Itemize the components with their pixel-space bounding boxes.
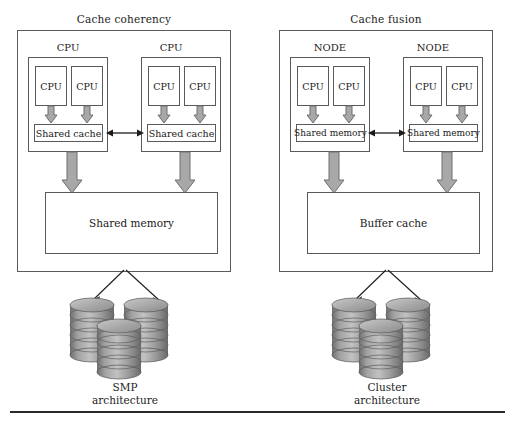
cpu-box-left-1a: CPU	[35, 66, 67, 106]
arrow-big-down-left-1	[61, 152, 83, 194]
arrow-big-down-right-1	[323, 152, 345, 194]
shared-memory-right-1: Shared memory	[296, 124, 365, 142]
disk-stack-smp	[68, 296, 180, 382]
panel-title-cache-fusion: Cache fusion	[279, 13, 493, 25]
cpu-box-left-2b: CPU	[184, 66, 216, 106]
arrow-down-right-1a	[306, 106, 320, 124]
interconnect-arrow-right	[368, 128, 406, 138]
caption-cluster-line1: Cluster	[320, 381, 454, 394]
disk-stack-cluster	[330, 296, 442, 382]
caption-smp-architecture: SMP architecture	[58, 381, 192, 407]
arrow-down-right-1b	[342, 106, 356, 124]
group-title-right-node-1: NODE	[289, 42, 371, 53]
cpu-box-right-2b: CPU	[446, 66, 478, 106]
cpu-box-right-2a: CPU	[410, 66, 442, 106]
memory-box-right: Buffer cache	[307, 192, 480, 254]
shared-memory-right-2: Shared memory	[409, 124, 478, 142]
caption-smp-line1: SMP	[58, 381, 192, 394]
panel-title-cache-coherency: Cache coherency	[17, 13, 231, 25]
group-title-right-node-2: NODE	[392, 42, 474, 53]
group-title-left-cpu-1: CPU	[27, 42, 109, 53]
arrow-down-left-2b	[193, 106, 207, 124]
arrow-big-down-left-2	[174, 152, 196, 194]
cpu-box-right-1b: CPU	[333, 66, 365, 106]
footer-rule	[10, 411, 505, 413]
interconnect-arrow-left	[106, 128, 144, 138]
arrow-down-left-1b	[80, 106, 94, 124]
arrow-down-right-2b	[455, 106, 469, 124]
group-title-left-cpu-2: CPU	[130, 42, 212, 53]
cpu-box-left-2a: CPU	[148, 66, 180, 106]
arrow-big-down-right-2	[436, 152, 458, 194]
cpu-box-left-1b: CPU	[71, 66, 103, 106]
shared-cache-left-2: Shared cache	[147, 124, 216, 142]
caption-cluster-line2: architecture	[320, 394, 454, 407]
arrow-down-right-2a	[419, 106, 433, 124]
arrow-down-left-2a	[157, 106, 171, 124]
memory-box-left: Shared memory	[45, 192, 218, 254]
diagram-canvas: Cache coherency CPU CPU CPU CPU CPU CPU …	[0, 0, 513, 427]
arrow-down-left-1a	[44, 106, 58, 124]
cpu-box-right-1a: CPU	[297, 66, 329, 106]
caption-cluster-architecture: Cluster architecture	[320, 381, 454, 407]
shared-cache-left-1: Shared cache	[34, 124, 103, 142]
caption-smp-line2: architecture	[58, 394, 192, 407]
